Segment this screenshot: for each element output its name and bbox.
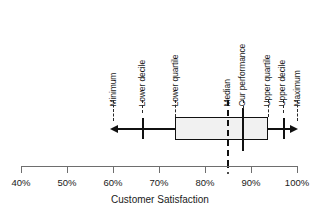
upper-decile-tick — [283, 118, 285, 139]
leader-line-upper-decile — [283, 100, 284, 113]
x-axis-tick-label-40: 40% — [11, 177, 30, 188]
callout-label-upper-quartile: Upper quartile — [263, 55, 272, 107]
leader-line-minimum — [113, 100, 114, 121]
median-line-upper — [227, 100, 229, 156]
x-axis-tick-40 — [21, 166, 22, 173]
x-axis-tick-label-70: 70% — [149, 177, 168, 188]
whisker-arrow-min-icon — [110, 125, 118, 133]
x-axis-title: Customer Satisfaction — [111, 194, 209, 205]
leader-line-lower-quartile — [175, 100, 176, 117]
box-plot-chart: Minimum Lower decile Lower quartile Medi… — [0, 0, 320, 213]
interquartile-box — [175, 117, 268, 140]
leader-line-maximum — [297, 100, 298, 121]
whisker-arrow-max-icon — [290, 125, 298, 133]
leader-line-upper-quartile — [268, 100, 269, 117]
x-axis-tick-label-100: 100% — [285, 177, 309, 188]
x-axis-tick-60 — [113, 166, 114, 173]
callout-label-lower-quartile: Lower quartile — [171, 55, 180, 107]
x-axis-tick-label-90: 90% — [241, 177, 260, 188]
x-axis-tick-80 — [205, 166, 206, 173]
lower-decile-tick — [142, 118, 144, 139]
x-axis-tick-label-80: 80% — [195, 177, 214, 188]
our-performance-marker — [242, 108, 244, 151]
x-axis-tick-label-60: 60% — [103, 177, 122, 188]
callout-label-our-performance: Our performance — [238, 44, 247, 107]
x-axis-tick-70 — [159, 166, 160, 173]
median-axis-dot — [227, 172, 229, 174]
x-axis-tick-label-50: 50% — [57, 177, 76, 188]
x-axis-tick-90 — [251, 166, 252, 173]
x-axis-tick-50 — [67, 166, 68, 173]
leader-line-lower-decile — [142, 100, 143, 113]
callout-label-upper-decile: Upper decile — [278, 60, 287, 107]
x-axis-tick-100 — [297, 166, 298, 173]
leader-line-our-performance — [243, 100, 244, 109]
